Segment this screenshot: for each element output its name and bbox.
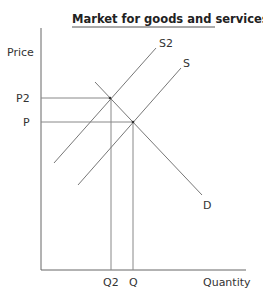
supply-demand-chart: Market for goods and services Price Quan… bbox=[0, 0, 263, 302]
equilibrium-point-2 bbox=[109, 97, 112, 100]
curve-label-d: D bbox=[203, 199, 211, 212]
quantity-label-q: Q bbox=[129, 276, 138, 289]
curve-label-s: S bbox=[183, 57, 190, 70]
supply-curve-s bbox=[78, 68, 181, 185]
chart-title: Market for goods and services bbox=[72, 12, 263, 26]
quantity-label-q2: Q2 bbox=[103, 276, 119, 289]
price-label-p2: P2 bbox=[16, 92, 30, 105]
price-label-p: P bbox=[23, 116, 30, 129]
equilibrium-point-1 bbox=[132, 121, 135, 124]
y-axis-label: Price bbox=[7, 46, 34, 59]
x-axis-label: Quantity bbox=[203, 276, 251, 289]
curve-label-s2: S2 bbox=[159, 37, 173, 50]
supply-curve-s2 bbox=[54, 48, 156, 163]
